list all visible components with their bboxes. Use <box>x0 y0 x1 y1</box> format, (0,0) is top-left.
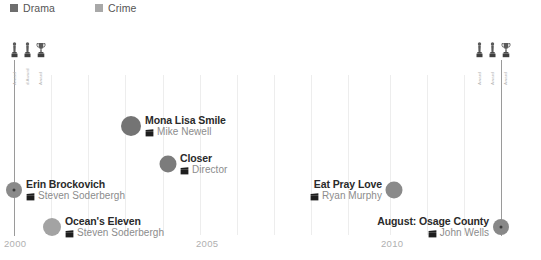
movie-title: Ocean's Eleven <box>65 215 164 227</box>
movie-bubble[interactable] <box>386 182 403 199</box>
award-trophy-icon[interactable]: Award <box>500 42 511 85</box>
trophy-icon <box>501 42 511 58</box>
timeline-axis-line <box>14 60 15 236</box>
x-axis-tick-label: 2000 <box>4 238 26 249</box>
gridline <box>125 75 126 235</box>
award-label: Award <box>12 59 17 85</box>
bubble-center-dot <box>500 226 503 229</box>
award-oscar-statuette-icon[interactable]: Award <box>474 42 485 85</box>
timeline-axis-line <box>501 60 502 236</box>
movie-label-group: Mona Lisa SmileMike Newell <box>145 114 226 138</box>
movie-director-name: John Wells <box>440 227 489 239</box>
movie-bubble[interactable] <box>43 218 61 236</box>
legend-swatch-icon <box>95 4 103 12</box>
legend-label: Crime <box>108 2 137 14</box>
movie-director-name: Director <box>192 164 227 176</box>
movie-label-group: Ocean's ElevenSteven Soderbergh <box>65 215 164 239</box>
movie-bubble[interactable] <box>160 156 177 173</box>
gridline <box>88 75 89 235</box>
award-oscar-statuette-icon[interactable]: Award <box>487 42 498 85</box>
movie-label-group: August: Osage CountyJohn Wells <box>377 215 489 239</box>
clapperboard-icon <box>65 229 74 238</box>
bubble-center-dot <box>13 189 16 192</box>
award-label: Award <box>490 59 495 85</box>
oscar-statuette-icon <box>23 42 32 58</box>
movie-title: Eat Pray Love <box>310 178 382 190</box>
movie-label-group: CloserDirector <box>180 152 227 176</box>
clapperboard-icon <box>180 166 189 175</box>
movie-director-name: Ryan Murphy <box>322 190 382 202</box>
x-axis-tick-label: 2005 <box>196 238 218 249</box>
movie-director-row: Director <box>180 164 227 176</box>
clapperboard-icon <box>310 192 319 201</box>
movie-director-name: Steven Soderbergh <box>38 190 125 202</box>
movie-director-row: Steven Soderbergh <box>26 190 125 202</box>
gridline <box>427 75 428 235</box>
legend-label: Drama <box>23 2 55 14</box>
gridline <box>390 75 391 235</box>
movie-label-group: Erin BrockovichSteven Soderbergh <box>26 178 125 202</box>
award-oscar-statuette-icon[interactable]: d Award <box>22 42 33 85</box>
award-label: d Award <box>25 59 30 85</box>
movie-title: Erin Brockovich <box>26 178 125 190</box>
gridline <box>464 75 465 235</box>
gridline <box>348 75 349 235</box>
gridline <box>274 75 275 235</box>
award-cluster: Awardd AwardAward <box>9 42 46 85</box>
legend: DramaCrime <box>0 0 541 18</box>
oscar-statuette-icon <box>10 42 19 58</box>
legend-item-crime[interactable]: Crime <box>95 2 137 14</box>
award-label: Award <box>38 59 43 85</box>
movie-title: Mona Lisa Smile <box>145 114 226 126</box>
award-trophy-icon[interactable]: Award <box>35 42 46 85</box>
movie-director-row: Mike Newell <box>145 126 226 138</box>
oscar-statuette-icon <box>475 42 484 58</box>
movie-director-row: Steven Soderbergh <box>65 227 164 239</box>
movie-director-name: Mike Newell <box>157 126 211 138</box>
movie-title: Closer <box>180 152 227 164</box>
gridline <box>51 75 52 235</box>
gridline <box>237 75 238 235</box>
clapperboard-icon <box>26 192 35 201</box>
legend-item-drama[interactable]: Drama <box>10 2 55 14</box>
timeline-plot: Awardd AwardAwardAwardAwardAwardErin Bro… <box>0 18 541 260</box>
gridline <box>311 75 312 235</box>
x-axis-tick-label: 2010 <box>381 238 403 249</box>
gridline <box>163 75 164 235</box>
movie-director-name: Steven Soderbergh <box>77 227 164 239</box>
award-cluster: AwardAwardAward <box>474 42 511 85</box>
movie-director-row: Ryan Murphy <box>310 190 382 202</box>
oscar-statuette-icon <box>488 42 497 58</box>
clapperboard-icon <box>428 229 437 238</box>
movie-title: August: Osage County <box>377 215 489 227</box>
award-oscar-statuette-icon[interactable]: Award <box>9 42 20 85</box>
movie-bubble[interactable] <box>121 116 141 136</box>
trophy-icon <box>36 42 46 58</box>
clapperboard-icon <box>145 128 154 137</box>
award-label: Award <box>477 59 482 85</box>
legend-swatch-icon <box>10 4 18 12</box>
award-label: Award <box>503 59 508 85</box>
movie-label-group: Eat Pray LoveRyan Murphy <box>310 178 382 202</box>
